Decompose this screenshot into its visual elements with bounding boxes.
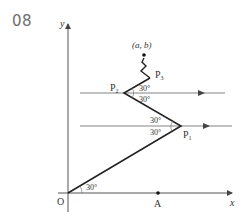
target-point — [142, 53, 146, 57]
y-axis-label: y — [59, 18, 65, 29]
upper-line-arrow-icon — [198, 90, 205, 96]
target-label: (a, b) — [132, 40, 152, 50]
p1-label: P1 — [183, 129, 192, 141]
origin-label: O — [57, 196, 64, 207]
lower-line-arrow-icon — [203, 123, 210, 129]
angle-p1-upper-label: 30° — [150, 116, 161, 125]
p3-label: P3 — [155, 69, 164, 81]
reflection-diagram: y x O A (a, b) 30° 30° 30° 30° 30° P1 P2… — [0, 0, 249, 223]
point-a-dot — [156, 191, 160, 195]
angle-p1-lower-label: 30° — [150, 128, 161, 137]
zigzag-path — [141, 58, 150, 78]
point-a-label: A — [154, 198, 162, 209]
angle-origin-label: 30° — [86, 183, 97, 192]
x-axis-label: x — [229, 197, 235, 208]
light-path — [68, 78, 181, 193]
angle-p2-lower-label: 30° — [139, 95, 150, 104]
angle-p2-upper-label: 30° — [139, 84, 150, 93]
p2-label: P2 — [110, 82, 119, 94]
